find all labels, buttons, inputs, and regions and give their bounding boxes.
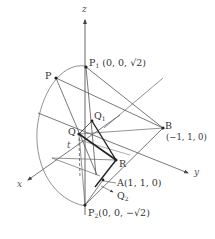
point-A [102,179,105,182]
label-R: R [119,159,126,169]
plane-line-2 [52,158,100,176]
label-P1: P1 (0, 0, √2) [89,58,146,69]
point-Q [77,132,80,135]
label-B-coords: (−1, 1, 0) [166,133,207,142]
bold-R-A [95,160,116,187]
y-axis-label: y [194,168,199,177]
point-P [54,76,57,79]
label-t: t [67,141,71,150]
point-Q1 [91,120,94,123]
label-P2: P2(0, 0, −√2) [88,208,150,219]
label-Q2: Q2 [117,191,129,202]
z-axis-label: z [82,5,87,14]
point-P2 [83,203,86,206]
bold-Q1-R [92,121,116,160]
x-axis [28,115,120,180]
x-axis-label: x [17,180,22,189]
label-Q1: Q1 [94,111,106,122]
geometry-diagram: z x y P1 (0, 0, √2) P Q1 Q t B (−1, 1, 0… [0,0,215,239]
Q2-pointer [101,186,113,192]
label-B: B [165,121,172,131]
line-A-P2 [85,180,103,205]
label-P: P [45,71,51,81]
diagram-svg [0,0,215,239]
cone-ellipse [37,66,86,206]
point-R [114,158,117,161]
line-P-Q [56,78,97,175]
A-pointer [104,181,116,183]
plane-line-1 [52,158,116,160]
point-P1 [84,65,87,68]
label-Q: Q [68,127,76,137]
label-A: A(1, 1, 0) [117,178,162,188]
